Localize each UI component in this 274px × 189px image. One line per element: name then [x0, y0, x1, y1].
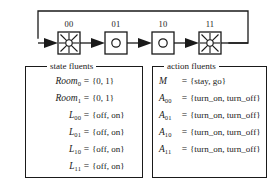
action-fluent-symbol: A11: [159, 144, 179, 157]
state-fluent-domain: {0, 1}: [92, 93, 114, 103]
action-fluent-equals: =: [179, 76, 190, 86]
state-fluent-symbol-subscript: 10: [74, 148, 81, 155]
action-fluent-row: A00={turn_on, turn_off}: [159, 93, 266, 110]
arrowhead-into-n01: [91, 38, 105, 48]
action-fluent-domain: {turn_on, turn_off}: [190, 93, 260, 103]
lamp-off-icon-10: [159, 39, 167, 47]
state-fluent-equals: =: [81, 161, 92, 171]
state-fluents-rows: Room0={0, 1}Room1={0, 1}L00={off, on}L01…: [26, 67, 142, 178]
state-fluent-symbol: Room1: [29, 93, 81, 106]
action-fluent-domain: {turn_on, turn_off}: [190, 110, 260, 120]
state-fluent-symbol-subscript: 00: [74, 114, 81, 121]
state-transition-chain: 00 01 10 11: [0, 0, 274, 60]
state-fluent-row: L00={off, on}: [29, 110, 142, 127]
state-fluent-domain: {off, on}: [92, 127, 124, 137]
arrowhead-into-n10: [138, 38, 152, 48]
action-fluent-row: A11={turn_on, turn_off}: [159, 144, 266, 161]
state-fluent-row: L11={off, on}: [29, 161, 142, 178]
action-fluent-symbol: M: [159, 76, 179, 86]
state-fluent-symbol: L10: [29, 144, 81, 157]
action-fluent-row: A10={turn_on, turn_off}: [159, 127, 266, 144]
action-fluent-row: M={stay, go}: [159, 76, 266, 93]
action-fluent-domain: {turn_on, turn_off}: [190, 144, 260, 154]
chain-svg: [0, 0, 274, 60]
action-fluent-symbol-subscript: 11: [165, 148, 171, 155]
node-label-00: 00: [57, 19, 81, 29]
action-fluent-equals: =: [179, 127, 190, 137]
action-fluent-symbol: A01: [159, 110, 179, 123]
state-fluent-symbol-subscript: 01: [74, 131, 81, 138]
state-fluent-equals: =: [81, 110, 92, 120]
action-fluents-box: action fluents M={stay, go}A00={turn_on,…: [152, 66, 267, 178]
action-fluent-symbol-subscript: 00: [165, 97, 172, 104]
action-fluent-equals: =: [179, 110, 190, 120]
action-fluent-symbol-subscript: 01: [165, 114, 172, 121]
action-fluent-equals: =: [179, 144, 190, 154]
action-fluent-symbol: A10: [159, 127, 179, 140]
node-label-01: 01: [104, 19, 128, 29]
arrowhead-into-n11: [185, 38, 199, 48]
state-fluent-row: Room1={0, 1}: [29, 93, 142, 110]
state-fluent-row: Room0={0, 1}: [29, 76, 142, 93]
state-fluent-symbol: L00: [29, 110, 81, 123]
state-fluent-domain: {0, 1}: [92, 76, 114, 86]
state-fluent-symbol: L11: [29, 161, 81, 174]
state-fluent-symbol: Room0: [29, 76, 81, 89]
action-fluents-rows: M={stay, go}A00={turn_on, turn_off}A01={…: [153, 67, 266, 161]
state-fluent-domain: {off, on}: [92, 110, 124, 120]
action-fluent-domain: {turn_on, turn_off}: [190, 127, 260, 137]
state-fluent-equals: =: [81, 127, 92, 137]
action-fluent-row: A01={turn_on, turn_off}: [159, 110, 266, 127]
state-fluent-row: L10={off, on}: [29, 144, 142, 161]
state-fluents-box: state fluents Room0={0, 1}Room1={0, 1}L0…: [25, 66, 143, 178]
state-fluent-domain: {off, on}: [92, 161, 124, 171]
state-fluent-domain: {off, on}: [92, 144, 124, 154]
state-fluent-equals: =: [81, 93, 92, 103]
action-fluent-symbol: A00: [159, 93, 179, 106]
action-fluent-domain: {stay, go}: [190, 76, 226, 86]
arrowhead-into-n00: [44, 38, 58, 48]
state-fluent-row: L01={off, on}: [29, 127, 142, 144]
lamp-on-icon-00: [59, 33, 79, 53]
action-fluent-equals: =: [179, 93, 190, 103]
node-label-11: 11: [198, 19, 222, 29]
state-fluent-equals: =: [81, 76, 92, 86]
lamp-off-icon-01: [112, 39, 120, 47]
lamp-on-icon-11: [200, 33, 220, 53]
figure-root: 00 01 10 11 state fluents Room0={0, 1}Ro…: [0, 0, 274, 189]
action-fluent-symbol-subscript: 10: [165, 131, 172, 138]
state-fluent-symbol: L01: [29, 127, 81, 140]
state-fluent-equals: =: [81, 144, 92, 154]
node-label-10: 10: [151, 19, 175, 29]
